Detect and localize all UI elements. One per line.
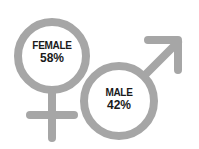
- male-label: MALE 42%: [89, 87, 149, 112]
- female-title: FEMALE: [22, 40, 82, 52]
- female-value: 58%: [22, 52, 82, 66]
- gender-symbols: [0, 0, 199, 149]
- male-value: 42%: [89, 99, 149, 113]
- female-label: FEMALE 58%: [22, 40, 82, 65]
- male-title: MALE: [89, 87, 149, 99]
